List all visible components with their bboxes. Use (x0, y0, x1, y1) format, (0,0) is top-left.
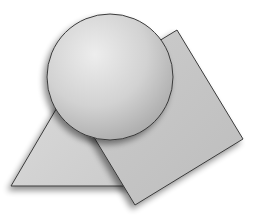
circle-ellipse (47, 14, 173, 140)
circle-shape (47, 14, 173, 140)
shapes-illustration (0, 0, 253, 224)
shapes-canvas (0, 0, 253, 224)
